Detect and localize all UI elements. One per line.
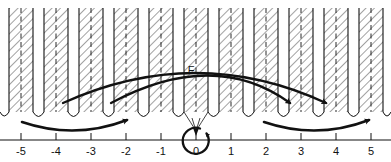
axis-tick-label: -1 (156, 145, 166, 157)
axis-tick-label: 3 (298, 145, 304, 157)
diagram-svg: -5 -4 -3 -2 -1 0 1 2 3 4 5 F (0, 0, 391, 162)
axis-tick-label: 5 (368, 145, 374, 157)
hatched-band (9, 8, 33, 112)
hatched-band (219, 8, 243, 112)
axis-tick-label: 4 (333, 145, 339, 157)
left-sweep-arrow (22, 120, 127, 131)
figure-canvas: -5 -4 -3 -2 -1 0 1 2 3 4 5 F (0, 0, 391, 162)
axis-tick-label: 2 (263, 145, 269, 157)
hatched-band (79, 8, 103, 112)
hatched-band (359, 8, 383, 112)
right-sweep-arrow (264, 120, 369, 131)
hatched-band (324, 8, 348, 112)
hatched-band (254, 8, 278, 112)
axis-tick-label: -5 (16, 145, 26, 157)
axis-tick-label: -2 (121, 145, 131, 157)
axis-tick-label: -4 (51, 145, 61, 157)
axis-tick-label: -3 (86, 145, 96, 157)
axis-tick-label: 0 (193, 145, 199, 157)
axis-ticks (21, 133, 371, 140)
axis-tick-labels: -5 -4 -3 -2 -1 0 1 2 3 4 5 (16, 145, 374, 157)
hatched-bands-group (9, 8, 383, 112)
hatched-band (149, 8, 173, 112)
hatched-band (184, 8, 208, 112)
hatched-band (44, 8, 68, 112)
point-label-f: F (188, 64, 195, 76)
scalloped-baseline (0, 112, 391, 117)
number-line-axis (0, 133, 391, 140)
axis-tick-label: 1 (228, 145, 234, 157)
